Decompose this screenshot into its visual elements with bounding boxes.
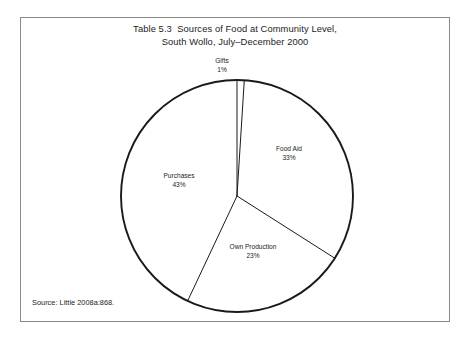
slice-label-gifts: Gifts 1% <box>196 57 248 74</box>
slice-label-food-aid-name: Food Aid <box>258 145 320 154</box>
slice-label-purchases-value: 43% <box>146 181 212 190</box>
slice-label-own-production-value: 23% <box>213 252 293 261</box>
pie-chart <box>0 0 475 338</box>
slice-label-own-production: Own Production 23% <box>213 243 293 260</box>
slice-label-own-production-name: Own Production <box>213 243 293 252</box>
slice-label-gifts-value: 1% <box>196 66 248 75</box>
slice-label-purchases-name: Purchases <box>146 172 212 181</box>
slice-label-food-aid-value: 33% <box>258 154 320 163</box>
slice-label-food-aid: Food Aid 33% <box>258 145 320 162</box>
figure-root: Table 5.3 Sources of Food at Community L… <box>0 0 475 338</box>
source-note: Source: Little 2008a:868. <box>32 298 114 308</box>
slice-label-purchases: Purchases 43% <box>146 172 212 189</box>
slice-label-gifts-name: Gifts <box>196 57 248 66</box>
